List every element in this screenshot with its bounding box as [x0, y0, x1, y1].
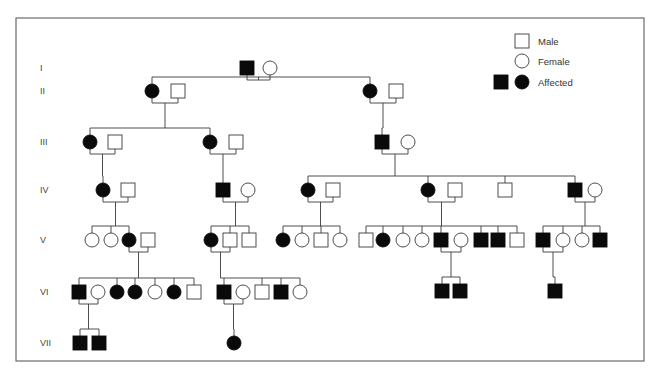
affected-male-square-icon	[92, 336, 106, 350]
affected-female-circle-icon	[145, 84, 159, 98]
generation-label: II	[40, 86, 45, 96]
female-circle-icon	[401, 135, 415, 149]
female-circle-icon	[104, 233, 118, 247]
male-square-icon	[141, 233, 155, 247]
male-square-icon	[448, 183, 462, 197]
generation-label: I	[40, 63, 43, 73]
affected-female-circle-icon	[227, 336, 241, 350]
affected-female-circle-icon	[301, 183, 315, 197]
male-square-icon	[255, 285, 269, 299]
affected-male-square-icon	[240, 61, 254, 75]
male-square-icon	[108, 135, 122, 149]
affected-male-square-icon	[474, 233, 488, 247]
affected-female-circle-icon	[203, 135, 217, 149]
female-circle-icon	[85, 233, 99, 247]
female-circle-icon	[454, 233, 468, 247]
affected-female-circle-icon	[376, 233, 390, 247]
generation-labels: IIIIIIIVVVIVII	[40, 63, 51, 348]
male-square-icon	[510, 233, 524, 247]
affected-male-square-icon	[536, 233, 550, 247]
generation-label: IV	[40, 185, 49, 195]
male-square-icon	[242, 233, 256, 247]
male-square-icon	[121, 183, 135, 197]
affected-male-square-icon	[568, 183, 582, 197]
affected-female-circle-icon	[96, 183, 110, 197]
affected-male-square-icon	[375, 135, 389, 149]
generation-label: VI	[40, 287, 49, 297]
female-circle-icon	[415, 233, 429, 247]
female-circle-icon	[236, 285, 250, 299]
male-square-icon	[498, 183, 512, 197]
female-circle-icon	[588, 183, 602, 197]
affected-female-circle-icon	[363, 84, 377, 98]
female-circle-icon	[293, 285, 307, 299]
affected-female-circle-icon	[83, 135, 97, 149]
generation-label: V	[40, 235, 46, 245]
affected-male-square-icon	[593, 233, 607, 247]
affected-female-circle-icon	[421, 183, 435, 197]
female-circle-icon	[91, 285, 105, 299]
generation-label: III	[40, 137, 48, 147]
female-circle-icon	[333, 233, 347, 247]
male-square-icon	[326, 183, 340, 197]
affected-female-circle-icon	[515, 75, 529, 89]
affected-female-circle-icon	[110, 285, 124, 299]
affected-female-circle-icon	[167, 285, 181, 299]
male-square-icon	[229, 135, 243, 149]
female-circle-icon	[295, 233, 309, 247]
affected-male-square-icon	[72, 285, 86, 299]
pedigree-diagram: IIIIIIIVVVIVII MaleFemaleAffected	[0, 0, 659, 374]
affected-male-square-icon	[435, 284, 449, 298]
affected-male-square-icon	[453, 284, 467, 298]
legend-label: Female	[538, 56, 570, 67]
affected-male-square-icon	[548, 284, 562, 298]
male-square-icon	[171, 84, 185, 98]
female-circle-icon	[263, 61, 277, 75]
female-circle-icon	[396, 233, 410, 247]
affected-male-square-icon	[434, 233, 448, 247]
pedigree-individuals	[72, 61, 607, 350]
legend: MaleFemaleAffected	[494, 34, 573, 89]
female-circle-icon	[515, 54, 529, 68]
affected-male-square-icon	[274, 285, 288, 299]
female-circle-icon	[556, 233, 570, 247]
legend-label: Affected	[538, 77, 573, 88]
affected-male-square-icon	[491, 233, 505, 247]
male-square-icon	[223, 233, 237, 247]
male-square-icon	[515, 34, 529, 48]
male-square-icon	[314, 233, 328, 247]
male-square-icon	[389, 84, 403, 98]
affected-female-circle-icon	[204, 233, 218, 247]
legend-label: Male	[538, 36, 559, 47]
female-circle-icon	[575, 233, 589, 247]
affected-male-square-icon	[216, 183, 230, 197]
male-square-icon	[359, 233, 373, 247]
male-square-icon	[187, 285, 201, 299]
generation-label: VII	[40, 338, 51, 348]
affected-female-circle-icon	[276, 233, 290, 247]
affected-female-circle-icon	[122, 233, 136, 247]
affected-male-square-icon	[73, 336, 87, 350]
affected-female-circle-icon	[128, 285, 142, 299]
affected-male-square-icon	[494, 75, 508, 89]
affected-male-square-icon	[217, 285, 231, 299]
female-circle-icon	[241, 183, 255, 197]
female-circle-icon	[148, 285, 162, 299]
